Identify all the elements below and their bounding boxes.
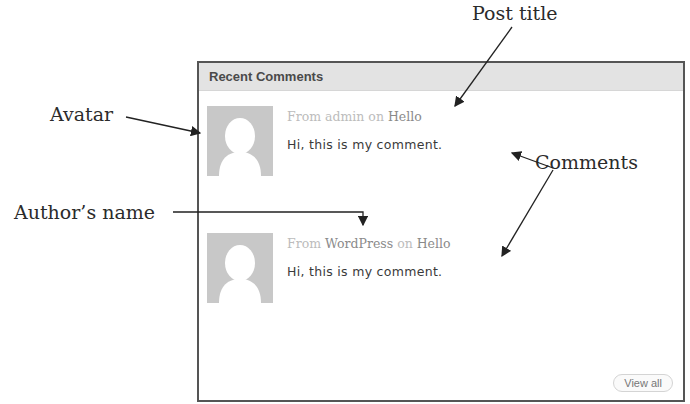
post-title-link[interactable]: Hello (388, 109, 422, 124)
recent-comments-widget: Recent Comments From admin on Hello Hi, … (197, 61, 685, 402)
annotation-avatar: Avatar (50, 103, 113, 125)
comment-text: Hi, this is my comment. (287, 137, 442, 152)
avatar[interactable] (207, 233, 273, 303)
author-link[interactable]: admin (325, 109, 364, 124)
author-link[interactable]: WordPress (325, 236, 393, 251)
avatar[interactable] (207, 106, 273, 176)
person-silhouette-icon (207, 233, 273, 303)
annotation-author-name: Author’s name (14, 201, 155, 223)
view-all-button[interactable]: View all (613, 374, 673, 392)
comment-meta: From WordPress on Hello (287, 236, 451, 251)
widget-title: Recent Comments (199, 63, 683, 91)
post-title-link[interactable]: Hello (417, 236, 451, 251)
annotation-comments: Comments (535, 151, 638, 173)
person-silhouette-icon (207, 106, 273, 176)
comment-text: Hi, this is my comment. (287, 264, 442, 279)
annotation-post-title: Post title (472, 2, 558, 24)
comment-meta: From admin on Hello (287, 109, 422, 124)
